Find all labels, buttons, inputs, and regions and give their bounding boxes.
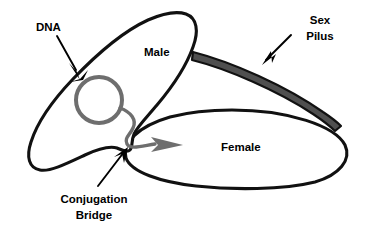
dna-leader-line: [57, 36, 76, 70]
label-female: Female: [221, 141, 261, 153]
label-conjugation-bridge-line1: Conjugation: [60, 193, 127, 205]
conjugation-diagram-canvas: DNA Male Female Sex Pilus Conjugation Br…: [0, 0, 379, 232]
label-sex-pilus-line1: Sex: [310, 14, 331, 26]
label-male: Male: [144, 46, 170, 58]
label-dna: DNA: [36, 21, 61, 33]
label-conjugation-bridge-line2: Bridge: [76, 209, 112, 221]
label-sex-pilus-line2: Pilus: [306, 30, 333, 42]
conjugation-diagram: DNA Male Female Sex Pilus Conjugation Br…: [0, 0, 379, 232]
conjugation-bridge-leader-stem: [98, 152, 124, 186]
